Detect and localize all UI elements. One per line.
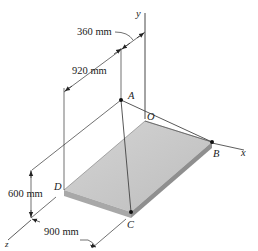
- point-C-label: C: [127, 220, 134, 231]
- point-C-dot: [129, 210, 133, 214]
- point-B-dot: [210, 140, 214, 144]
- point-D-label: D: [54, 182, 62, 193]
- point-O-label: O: [147, 112, 155, 123]
- construction-C-base: [92, 219, 126, 248]
- dim-900-leader: [80, 240, 95, 246]
- point-A-dot: [119, 98, 123, 102]
- dim-920-arrow-upper: [114, 49, 121, 54]
- diagram-canvas: [0, 0, 258, 251]
- point-B-label: B: [213, 149, 219, 160]
- construction-D-base: [31, 197, 56, 218]
- dimension-line-top: [64, 32, 145, 92]
- dim-900-arrow-left: [32, 219, 40, 222]
- dim-360-leader: [115, 32, 133, 40]
- plate: [64, 121, 212, 218]
- dimension-920mm: 920 mm: [72, 66, 107, 77]
- point-A-label: A: [128, 91, 134, 102]
- dimension-360mm: 360 mm: [77, 27, 112, 38]
- z-axis: [8, 220, 31, 240]
- x-axis-label: x: [241, 148, 246, 159]
- dimension-900mm: 900 mm: [44, 227, 79, 238]
- dim-360-arrow: [137, 33, 144, 38]
- y-axis-label: y: [136, 9, 141, 20]
- z-axis-label: z: [5, 240, 9, 249]
- dim-920-arrow-lower: [65, 86, 72, 91]
- dim-360-arrow-lower: [122, 43, 130, 49]
- dimension-600mm: 600 mm: [8, 189, 43, 200]
